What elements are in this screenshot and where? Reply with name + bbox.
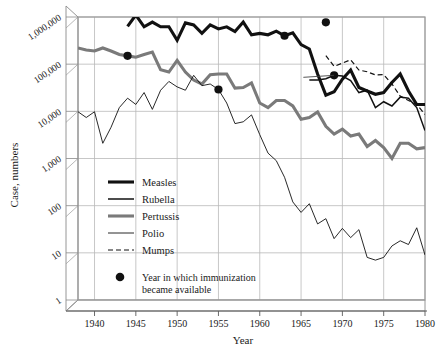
chart-container: 1,000,000100,00010,0001,000100101 194019… <box>0 0 442 353</box>
x-tick-label: 1945 <box>126 318 146 329</box>
x-tick-label: 1940 <box>85 318 105 329</box>
x-tick-label: 1955 <box>208 318 228 329</box>
y-tick-label: 1,000 <box>40 154 64 174</box>
y-tick-label: 100 <box>46 201 64 217</box>
legend-label-mumps: Mumps <box>142 245 174 256</box>
x-axis-tick-labels: 194019451950195519601965197019751980 <box>85 318 435 329</box>
x-axis-title: Year <box>233 334 254 346</box>
x-tick-label: 1980 <box>415 318 435 329</box>
y-axis-title: Case, numbers <box>8 143 20 208</box>
immunization-marker-mumps <box>322 18 330 26</box>
immunization-marker-measles <box>280 32 288 40</box>
y-tick-label: 10,000 <box>36 107 63 130</box>
x-tick-label: 1960 <box>250 318 270 329</box>
y-tick-label: 100,000 <box>32 60 63 86</box>
legend-label-polio: Polio <box>142 228 164 239</box>
y-tick-label: 10 <box>50 248 64 262</box>
gridlines <box>78 17 425 300</box>
legend-label-pertussis: Pertussis <box>142 211 179 222</box>
x-tick-label: 1975 <box>374 318 394 329</box>
legend-note-line1: Year in which immunization <box>142 272 256 283</box>
legend-label-measles: Measles <box>142 177 176 188</box>
x-tick-label: 1965 <box>291 318 311 329</box>
x-axis-floor <box>66 300 425 311</box>
y-tick-label: 1 <box>54 295 64 306</box>
immunization-marker-pertussis <box>123 52 131 60</box>
x-tick-label: 1970 <box>332 318 352 329</box>
legend-marker-dot <box>116 273 125 282</box>
legend-label-rubella: Rubella <box>142 194 175 205</box>
immunization-cases-line-chart: 1,000,000100,00010,0001,000100101 194019… <box>0 0 442 353</box>
x-tick-label: 1950 <box>167 318 187 329</box>
y-tick-label: 1,000,000 <box>26 12 63 42</box>
legend-note-line2: became available <box>142 284 212 295</box>
y-axis-tick-labels: 1,000,000100,00010,0001,000100101 <box>26 12 63 306</box>
immunization-marker-polio <box>214 85 222 93</box>
